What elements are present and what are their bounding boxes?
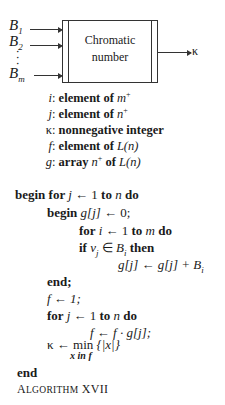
output-kappa: κ <box>192 44 198 59</box>
decl-kappa: κ: nonnegative integer <box>38 123 164 138</box>
code-line-2: begin g[j] ← 0; <box>47 205 130 221</box>
code-line-5: g[j] ← g[j] + Bi <box>118 257 204 273</box>
arrow-bm <box>34 75 62 76</box>
decl-j: j: element of n+ <box>38 107 128 122</box>
box-label-line1: Chromatic <box>63 33 157 48</box>
code-line-10: κ ← minx in f {|x|} <box>47 337 120 353</box>
code-line-4: if vj ∈ Bi then <box>79 240 154 256</box>
arrow-output <box>158 52 191 53</box>
arrow-b2 <box>30 45 62 46</box>
algorithm-caption: ALGORITHM XVII <box>17 382 108 397</box>
decl-g: g: array n+ of L(n) <box>38 155 141 170</box>
code-line-3: for i ← 1 to m do <box>79 223 172 239</box>
code-line-1: begin for j ← 1 to n do <box>15 187 139 203</box>
input-bm-label: Bm <box>9 65 25 82</box>
arrow-b1 <box>30 29 62 30</box>
code-line-7: f ← 1; <box>47 291 81 307</box>
code-line-8: for j ← 1 to n do <box>47 308 137 324</box>
decl-f: f: element of L(n) <box>38 139 138 154</box>
decl-i: i: element of m+ <box>38 91 130 106</box>
input-b1-label: B1 <box>9 17 23 34</box>
box-label-line2: number <box>63 50 157 65</box>
chromatic-number-box: Chromatic number <box>62 20 158 83</box>
code-line-6: end; <box>47 274 72 290</box>
code-line-11: end <box>17 365 37 381</box>
